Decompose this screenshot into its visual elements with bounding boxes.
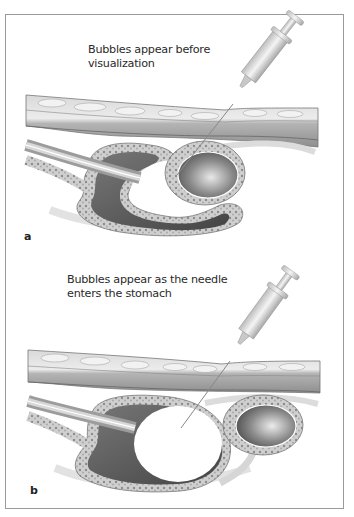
bowel-loop [165, 141, 245, 205]
panel-label-b: b [30, 484, 38, 497]
panel-b: Bubbles appear as the needle enters the … [0, 258, 354, 517]
abdominal-wall [28, 350, 320, 393]
bowel-loop [223, 395, 303, 455]
illustration-a [0, 0, 354, 258]
abdominal-wall [26, 95, 318, 147]
caption-a: Bubbles appear before visualization [88, 43, 258, 71]
syringe-barrel [239, 286, 284, 339]
panel-a: Bubbles appear before visualization a [0, 0, 354, 258]
stomach-lumen [134, 406, 222, 482]
caption-b: Bubbles appear as the needle enters the … [67, 273, 237, 301]
stomach-distended [75, 395, 230, 492]
panel-label-a: a [24, 230, 31, 243]
syringe [177, 8, 306, 175]
